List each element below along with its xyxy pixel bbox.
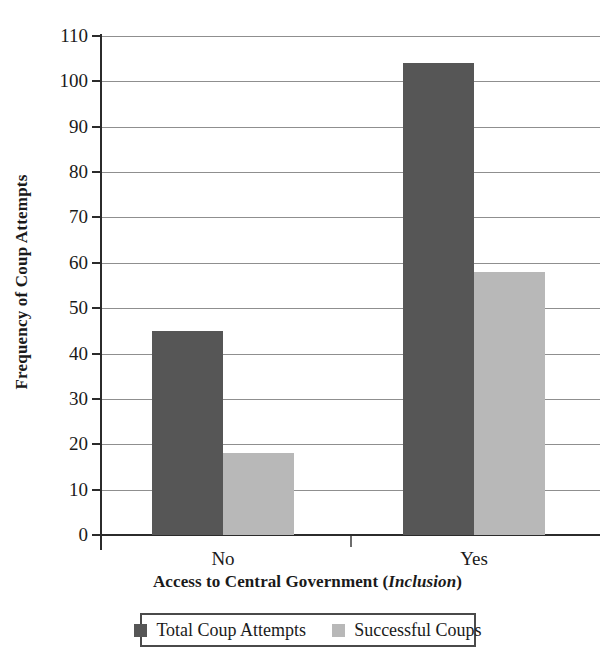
bar-yes-successful-coups bbox=[474, 272, 545, 535]
legend-entry[interactable]: Total Coup Attempts bbox=[134, 621, 306, 639]
x-axis-title-suffix: ) bbox=[456, 572, 462, 591]
x-axis-title-prefix: Access to Central Government ( bbox=[153, 572, 388, 591]
legend-swatch-icon bbox=[134, 624, 147, 637]
y-axis-tick-label: 20 bbox=[28, 434, 88, 453]
y-axis-tick-labels: 0102030405060708090100110 bbox=[12, 0, 88, 659]
y-axis-tick-label: 110 bbox=[28, 26, 88, 45]
y-axis-tick-label: 60 bbox=[28, 253, 88, 272]
bars-layer bbox=[100, 36, 600, 535]
legend-label: Successful Coups bbox=[354, 621, 482, 639]
bar-no-successful-coups bbox=[223, 453, 294, 535]
y-axis-tick-label: 70 bbox=[28, 207, 88, 226]
y-axis-tick-label: 10 bbox=[28, 480, 88, 499]
chart-legend: Total Coup AttemptsSuccessful Coups bbox=[140, 613, 476, 647]
y-axis-tick-label: 30 bbox=[28, 389, 88, 408]
x-axis-title-emphasis: Inclusion bbox=[388, 572, 456, 591]
y-axis-tick-label: 80 bbox=[28, 162, 88, 181]
y-axis-tick-label: 40 bbox=[28, 344, 88, 363]
bar-chart-figure: Frequency of Coup Attempts 0102030405060… bbox=[0, 0, 615, 659]
bar-no-total-coup-attempts bbox=[152, 331, 223, 535]
x-axis-tick-separator bbox=[350, 536, 352, 547]
bar-yes-total-coup-attempts bbox=[403, 63, 474, 535]
x-axis-title: Access to Central Government (Inclusion) bbox=[0, 572, 615, 592]
y-axis-tick-label: 0 bbox=[28, 525, 88, 544]
legend-swatch-icon bbox=[332, 624, 345, 637]
y-axis-tick-label: 50 bbox=[28, 298, 88, 317]
y-axis-tick-label: 90 bbox=[28, 117, 88, 136]
legend-label: Total Coup Attempts bbox=[156, 621, 306, 639]
legend-entry[interactable]: Successful Coups bbox=[332, 621, 482, 639]
x-axis-category-label-yes: Yes bbox=[394, 548, 554, 570]
y-axis-tick-label: 100 bbox=[28, 71, 88, 90]
x-axis-category-label-no: No bbox=[143, 548, 303, 570]
